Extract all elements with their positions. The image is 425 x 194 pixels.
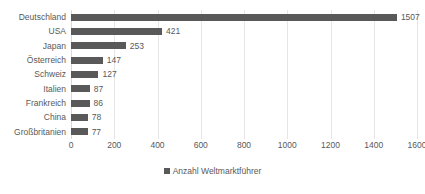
bar-row: 421 xyxy=(71,24,417,38)
bar xyxy=(71,114,88,121)
bar-value-label: 147 xyxy=(107,56,121,65)
bar-row: 1507 xyxy=(71,10,417,24)
category-label: China xyxy=(44,110,66,124)
bar-value-label: 77 xyxy=(92,128,101,137)
bar-row: 77 xyxy=(71,125,417,139)
x-tick-label: 1000 xyxy=(278,141,297,150)
x-tick-label: 600 xyxy=(194,141,208,150)
gridline xyxy=(417,10,418,139)
bar xyxy=(71,100,90,107)
bar xyxy=(71,57,103,64)
bar xyxy=(71,128,88,135)
bar-rows: 150742125314712787867877 xyxy=(71,10,417,139)
bar-row: 86 xyxy=(71,96,417,110)
category-label: Österreich xyxy=(27,53,66,67)
bar-row: 147 xyxy=(71,53,417,67)
bar xyxy=(71,85,90,92)
bar xyxy=(71,42,126,49)
category-label: Schweiz xyxy=(34,67,66,81)
bar-chart: 150742125314712787867877 DeutschlandUSAJ… xyxy=(0,0,425,194)
bar-row: 253 xyxy=(71,39,417,53)
legend-swatch-icon xyxy=(164,168,170,174)
category-label: USA xyxy=(49,24,66,38)
bar-row: 87 xyxy=(71,82,417,96)
legend-label: Anzahl Weltmarktführer xyxy=(173,167,262,176)
x-tick-label: 1600 xyxy=(408,141,425,150)
bar-value-label: 87 xyxy=(94,85,103,94)
bar-row: 78 xyxy=(71,110,417,124)
legend-item-anzahl-weltmarktfuehrer: Anzahl Weltmarktführer xyxy=(164,167,262,176)
bar xyxy=(71,28,162,35)
plot-area: 150742125314712787867877 xyxy=(71,10,417,139)
x-tick-label: 0 xyxy=(69,141,74,150)
bar-value-label: 253 xyxy=(130,42,144,51)
bar-value-label: 86 xyxy=(94,99,103,108)
category-label: Frankreich xyxy=(26,96,66,110)
category-axis-labels: DeutschlandUSAJapanÖsterreichSchweizItal… xyxy=(0,10,66,139)
bar-value-label: 127 xyxy=(102,70,116,79)
category-label: Italien xyxy=(43,82,66,96)
x-tick-label: 1400 xyxy=(364,141,383,150)
bar xyxy=(71,14,397,21)
x-tick-label: 400 xyxy=(150,141,164,150)
value-axis-tick-labels: 02004006008001000120014001600 xyxy=(0,141,425,155)
x-tick-label: 800 xyxy=(237,141,251,150)
chart-legend: Anzahl Weltmarktführer xyxy=(0,167,425,176)
x-tick-label: 1200 xyxy=(321,141,340,150)
bar-value-label: 1507 xyxy=(401,13,420,22)
bar-value-label: 421 xyxy=(166,27,180,36)
category-label: Deutschland xyxy=(19,10,66,24)
bar-value-label: 78 xyxy=(92,113,101,122)
x-tick-label: 200 xyxy=(107,141,121,150)
bar xyxy=(71,71,98,78)
category-label: Großbritanien xyxy=(14,125,66,139)
category-label: Japan xyxy=(43,39,66,53)
bar-row: 127 xyxy=(71,67,417,81)
